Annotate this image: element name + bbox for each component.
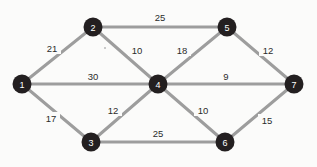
paper-speck	[104, 47, 106, 49]
node-label-2: 2	[90, 23, 95, 33]
edge-weight-2-4: 10	[132, 45, 143, 56]
edge-weight-3-6: 25	[153, 128, 164, 139]
graph-edge-2-4	[93, 27, 158, 84]
node-label-4: 4	[155, 80, 160, 90]
node-label-6: 6	[222, 138, 227, 148]
graph-node-4[interactable]: 4	[149, 75, 168, 94]
graph-svg: 1234567 21301725101225189101215	[0, 0, 317, 167]
graph-node-2[interactable]: 2	[84, 18, 103, 37]
graph-node-6[interactable]: 6	[216, 133, 235, 152]
edge-weight-4-7: 9	[223, 71, 228, 82]
edge-weight-2-5: 25	[155, 12, 166, 23]
edge-weight-5-7: 12	[263, 45, 274, 56]
edge-weight-1-4: 30	[88, 71, 99, 82]
graph-node-3[interactable]: 3	[82, 133, 101, 152]
node-label-3: 3	[88, 138, 93, 148]
graph-edge-6-7	[225, 84, 294, 142]
node-label-5: 5	[224, 23, 229, 33]
edge-weight-1-2: 21	[47, 43, 58, 54]
graph-edge-3-4	[91, 84, 158, 142]
graph-node-5[interactable]: 5	[218, 18, 237, 37]
edge-weight-4-6: 10	[198, 105, 209, 116]
graph-edge-1-2	[22, 27, 93, 84]
graph-edge-4-5	[158, 27, 227, 84]
node-label-1: 1	[19, 80, 24, 90]
graph-node-1[interactable]: 1	[13, 75, 32, 94]
node-label-7: 7	[291, 80, 296, 90]
graph-diagram: 1234567 21301725101225189101215	[0, 0, 317, 167]
edge-weight-6-7: 15	[262, 115, 273, 126]
graph-node-7[interactable]: 7	[285, 75, 304, 94]
edge-weight-4-5: 18	[177, 45, 188, 56]
graph-edge-4-6	[158, 84, 225, 142]
edge-weight-1-3: 17	[46, 113, 57, 124]
edge-weight-3-4: 12	[108, 105, 119, 116]
